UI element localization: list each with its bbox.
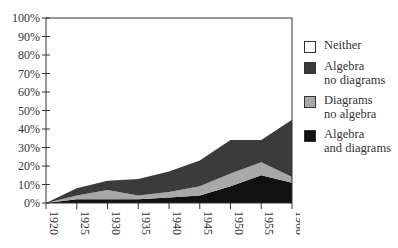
legend-label: Diagrams no algebra xyxy=(324,93,376,121)
y-tick-label: 10% xyxy=(18,178,40,192)
x-tick-label: 1940 xyxy=(170,211,184,235)
legend: Neither Algebra no diagrams Diagrams no … xyxy=(304,38,398,161)
y-tick-label: 50% xyxy=(18,104,40,118)
x-tick-label: 1925 xyxy=(78,211,92,235)
x-tick-label: 1950 xyxy=(232,211,246,235)
legend-label: Algebra no diagrams xyxy=(324,59,385,87)
x-tick-label: 1930 xyxy=(109,211,123,235)
x-tick-label: 1920 xyxy=(47,211,61,235)
y-tick-label: 70% xyxy=(18,67,40,81)
legend-item-algebra-and-diagrams: Algebra and diagrams xyxy=(304,127,398,155)
x-tick-label: 1945 xyxy=(201,211,215,235)
y-tick-label: 90% xyxy=(18,30,40,44)
legend-swatch-neither xyxy=(304,41,316,53)
x-tick-label: 1955 xyxy=(262,211,276,235)
x-tick-label: 1960 xyxy=(293,211,300,235)
y-tick-label: 80% xyxy=(18,48,40,62)
legend-item-algebra-no-diagrams: Algebra no diagrams xyxy=(304,59,398,87)
legend-swatch-diagrams-no-algebra xyxy=(304,96,316,108)
y-tick-label: 20% xyxy=(18,159,40,173)
y-tick-label: 30% xyxy=(18,141,40,155)
legend-label: Algebra and diagrams xyxy=(324,127,391,155)
legend-item-neither: Neither xyxy=(304,38,398,53)
legend-swatch-algebra-no-diagrams xyxy=(304,62,316,74)
y-tick-label: 40% xyxy=(18,122,40,136)
y-tick-label: 0% xyxy=(24,196,40,210)
y-tick-label: 60% xyxy=(18,85,40,99)
x-tick-label: 1935 xyxy=(139,211,153,235)
legend-swatch-algebra-and-diagrams xyxy=(304,130,316,142)
stacked-area-chart: 0%10%20%30%40%50%60%70%80%90%100%1920192… xyxy=(0,0,300,248)
legend-label: Neither xyxy=(324,38,361,52)
chart-areas xyxy=(46,120,292,203)
y-tick-label: 100% xyxy=(12,11,40,25)
legend-item-diagrams-no-algebra: Diagrams no algebra xyxy=(304,93,398,121)
